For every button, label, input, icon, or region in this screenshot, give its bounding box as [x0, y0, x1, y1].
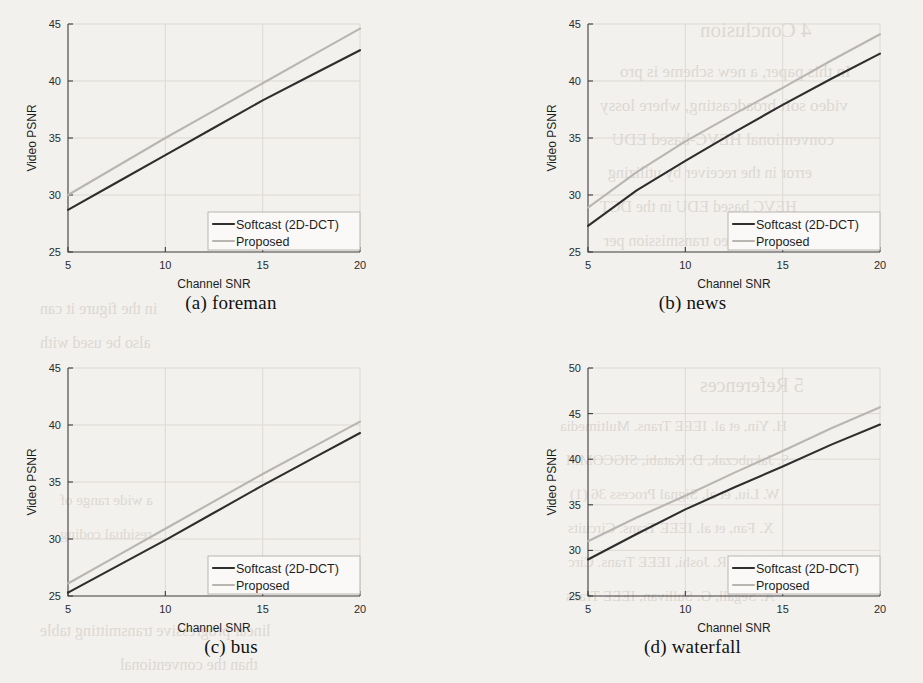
- y-tick-label: 25: [569, 246, 581, 258]
- x-tick-label: 10: [679, 259, 691, 271]
- x-tick-label: 5: [585, 259, 591, 271]
- caption-waterfall: (d) waterfall: [462, 636, 923, 658]
- y-tick-label: 35: [569, 499, 581, 511]
- series-line-softcast: [68, 50, 360, 210]
- legend-label-proposed: Proposed: [236, 579, 290, 593]
- series-line-proposed: [588, 34, 880, 207]
- x-tick-label: 20: [354, 259, 366, 271]
- chart-news: 25303540455101520Channel SNRVideo PSNRSo…: [542, 10, 902, 300]
- caption-foreman: (a) foreman: [0, 292, 462, 314]
- x-tick-label: 15: [777, 259, 789, 271]
- y-tick-label: 45: [569, 408, 581, 420]
- y-tick-label: 45: [49, 18, 61, 30]
- x-tick-label: 15: [777, 603, 789, 615]
- series-line-proposed: [588, 407, 880, 541]
- figure-grid: 25303540455101520Channel SNRVideo PSNRSo…: [0, 0, 923, 683]
- caption-bus: (c) bus: [0, 636, 462, 658]
- y-axis-title: Video PSNR: [25, 448, 39, 515]
- y-tick-label: 35: [569, 132, 581, 144]
- panel-waterfall: 2530354045505101520Channel SNRVideo PSNR…: [462, 342, 923, 683]
- y-tick-label: 30: [569, 544, 581, 556]
- x-tick-label: 5: [65, 603, 71, 615]
- x-axis-title: Channel SNR: [177, 621, 251, 635]
- y-axis-title: Video PSNR: [25, 104, 39, 171]
- y-tick-label: 40: [569, 453, 581, 465]
- y-tick-label: 40: [49, 75, 61, 87]
- y-tick-label: 45: [569, 18, 581, 30]
- panel-bus: 25303540455101520Channel SNRVideo PSNRSo…: [0, 342, 462, 683]
- x-tick-label: 5: [585, 603, 591, 615]
- y-tick-label: 40: [49, 419, 61, 431]
- legend-label-proposed: Proposed: [236, 235, 290, 249]
- legend-label-softcast: Softcast (2D-DCT): [236, 218, 339, 232]
- chart-waterfall: 2530354045505101520Channel SNRVideo PSNR…: [542, 354, 902, 644]
- series-line-softcast: [588, 425, 880, 560]
- x-tick-label: 15: [257, 259, 269, 271]
- y-tick-label: 40: [569, 75, 581, 87]
- caption-news: (b) news: [462, 292, 923, 314]
- y-axis-title: Video PSNR: [545, 448, 559, 515]
- y-axis-title: Video PSNR: [545, 104, 559, 171]
- panel-foreman: 25303540455101520Channel SNRVideo PSNRSo…: [0, 0, 462, 342]
- y-tick-label: 30: [49, 533, 61, 545]
- x-tick-label: 5: [65, 259, 71, 271]
- x-tick-label: 20: [354, 603, 366, 615]
- y-tick-label: 30: [569, 189, 581, 201]
- y-tick-label: 25: [49, 246, 61, 258]
- x-axis-title: Channel SNR: [697, 277, 771, 291]
- plot-waterfall: 2530354045505101520Channel SNRVideo PSNR…: [542, 354, 902, 644]
- y-tick-label: 50: [569, 362, 581, 374]
- x-axis-title: Channel SNR: [177, 277, 251, 291]
- x-tick-label: 10: [679, 603, 691, 615]
- legend-label-proposed: Proposed: [756, 579, 810, 593]
- legend-label-softcast: Softcast (2D-DCT): [756, 218, 859, 232]
- x-tick-label: 10: [159, 603, 171, 615]
- chart-foreman: 25303540455101520Channel SNRVideo PSNRSo…: [22, 10, 382, 300]
- y-tick-label: 45: [49, 362, 61, 374]
- x-tick-label: 20: [874, 259, 886, 271]
- y-tick-label: 25: [49, 590, 61, 602]
- legend-label-softcast: Softcast (2D-DCT): [236, 562, 339, 576]
- x-tick-label: 15: [257, 603, 269, 615]
- chart-bus: 25303540455101520Channel SNRVideo PSNRSo…: [22, 354, 382, 644]
- series-line-softcast: [588, 54, 880, 226]
- panel-news: 25303540455101520Channel SNRVideo PSNRSo…: [462, 0, 923, 342]
- legend-label-proposed: Proposed: [756, 235, 810, 249]
- x-tick-label: 10: [159, 259, 171, 271]
- x-tick-label: 20: [874, 603, 886, 615]
- x-axis-title: Channel SNR: [697, 621, 771, 635]
- y-tick-label: 25: [569, 590, 581, 602]
- legend-label-softcast: Softcast (2D-DCT): [756, 562, 859, 576]
- series-line-proposed: [68, 29, 360, 195]
- y-tick-label: 30: [49, 189, 61, 201]
- plot-news: 25303540455101520Channel SNRVideo PSNRSo…: [542, 10, 902, 300]
- plot-foreman: 25303540455101520Channel SNRVideo PSNRSo…: [22, 10, 382, 300]
- plot-bus: 25303540455101520Channel SNRVideo PSNRSo…: [22, 354, 382, 644]
- y-tick-label: 35: [49, 476, 61, 488]
- y-tick-label: 35: [49, 132, 61, 144]
